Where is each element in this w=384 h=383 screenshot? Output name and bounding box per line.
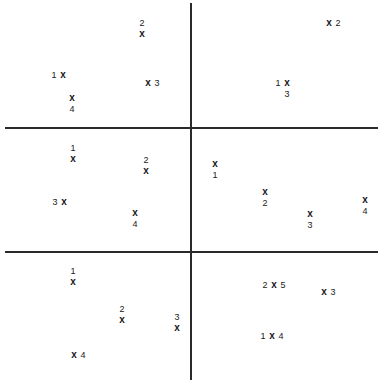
point-label-middle-right: 1: [212, 171, 217, 180]
point-marker-bottom-right: x: [269, 331, 275, 341]
point-marker-top-right: x: [326, 18, 332, 28]
point-marker-bottom-right: x: [321, 287, 327, 297]
point-label-bottom-right: 5: [280, 281, 285, 290]
horizontal-divider-line-top: [5, 127, 378, 129]
point-label-top-right: 2: [335, 19, 340, 28]
point-marker-middle-left: x: [143, 166, 149, 176]
point-marker-middle-left: x: [132, 208, 138, 218]
point-label-bottom-right: 3: [330, 288, 335, 297]
point-label-top-right: 3: [284, 90, 289, 99]
quadrant-diagram: x2x1x3x4x2x13x1x2x3x4x1x2x3x4x1x2x3x4x25…: [0, 0, 384, 383]
point-marker-middle-right: x: [212, 159, 218, 169]
point-marker-middle-left: x: [70, 154, 76, 164]
point-label-middle-right: 2: [262, 199, 267, 208]
point-label-bottom-left: 4: [80, 351, 85, 360]
point-marker-bottom-left: x: [70, 277, 76, 287]
point-marker-top-left: x: [145, 78, 151, 88]
point-marker-middle-right: x: [362, 195, 368, 205]
point-marker-middle-right: x: [307, 209, 313, 219]
point-marker-middle-left: x: [61, 197, 67, 207]
point-label-middle-left: 4: [132, 220, 137, 229]
point-label-top-right: 1: [275, 79, 280, 88]
point-label-top-left: 2: [139, 19, 144, 28]
horizontal-divider-line-bottom: [5, 251, 378, 253]
point-marker-top-right: x: [284, 78, 290, 88]
point-marker-bottom-left: x: [174, 323, 180, 333]
point-label-top-left: 4: [69, 105, 74, 114]
point-label-middle-left: 2: [143, 156, 148, 165]
point-label-top-left: 3: [154, 79, 159, 88]
point-label-top-left: 1: [51, 71, 56, 80]
point-marker-top-left: x: [69, 93, 75, 103]
point-label-bottom-right: 4: [278, 332, 283, 341]
point-label-middle-right: 3: [307, 221, 312, 230]
point-label-bottom-right: 2: [262, 281, 267, 290]
point-label-middle-right: 4: [362, 207, 367, 216]
point-marker-bottom-right: x: [271, 280, 277, 290]
point-label-bottom-right: 1: [260, 332, 265, 341]
vertical-divider-line: [190, 3, 192, 380]
point-marker-bottom-left: x: [71, 350, 77, 360]
point-marker-top-left: x: [139, 29, 145, 39]
point-label-bottom-left: 3: [174, 313, 179, 322]
point-marker-bottom-left: x: [119, 315, 125, 325]
point-label-middle-left: 1: [70, 144, 75, 153]
point-label-bottom-left: 2: [119, 305, 124, 314]
point-marker-middle-right: x: [262, 187, 268, 197]
point-label-bottom-left: 1: [70, 267, 75, 276]
point-marker-top-left: x: [60, 70, 66, 80]
point-label-middle-left: 3: [52, 198, 57, 207]
